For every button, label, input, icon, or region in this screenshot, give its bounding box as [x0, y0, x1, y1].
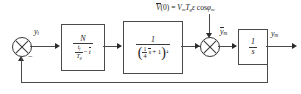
arrowhead-lag-input [117, 43, 122, 49]
signal-label-yt: yt [34, 28, 39, 36]
signal-label-ybar-sub: m [224, 30, 228, 36]
feedback-wire-right-vertical [267, 46, 268, 82]
arrowhead-gain-input [55, 43, 60, 49]
lag-den-quarter: 1 4 [142, 46, 147, 59]
integrator-expression: 1 s [249, 38, 257, 56]
signal-label-yt-sub: t [38, 30, 39, 36]
lag-block: 1 ( 1 4 s + 1 ) 4 [123, 21, 183, 74]
lag-numerator: 1 [149, 36, 157, 44]
output-signal-label: ym [271, 30, 278, 38]
wire-integrator-to-output [266, 46, 295, 47]
lag-denominator: ( 1 4 s + 1 ) 4 [136, 44, 171, 59]
gain-den-frac-num: tf [77, 44, 82, 52]
vbar-arg: (0) = [161, 3, 176, 12]
gain-block: N tf Tg − t [61, 24, 105, 71]
initial-condition-annotation: V(0) = VmTgε cosφm [156, 4, 214, 13]
gain-denominator: tf Tg − t [73, 43, 92, 61]
signal-label-ybar-m: ym [220, 28, 227, 36]
tg-term: Tg [185, 3, 192, 12]
arrowhead-integrator-input [232, 43, 237, 49]
phi-term: φm [207, 3, 215, 12]
epsilon-term: ε [192, 3, 195, 12]
feedback-wire-left-vertical [21, 56, 22, 83]
feedback-wire-horizontal [21, 82, 268, 83]
vbar-symbol: V [156, 4, 161, 12]
output-label-sub: m [275, 32, 279, 38]
lag-den-exponent: 4 [166, 50, 168, 55]
wire-sum1-to-gain [30, 46, 58, 47]
gain-den-tbar: t [89, 49, 91, 56]
gain-den-frac-den: Tg [75, 52, 82, 61]
gain-block-expression: N tf Tg − t [73, 35, 92, 61]
integrator-denominator: s [249, 47, 256, 56]
gain-numerator: N [78, 35, 87, 43]
integrator-block: 1 s [238, 29, 268, 65]
arrowhead-output [292, 43, 297, 49]
block-diagram: − yt N tf Tg − t 1 ( [0, 0, 301, 94]
lag-den-plus-one: + 1 [152, 49, 161, 56]
gain-den-fraction: tf Tg [75, 44, 82, 61]
lag-den-quarter-den: 4 [142, 52, 147, 59]
summing-junction-2 [200, 37, 220, 57]
feedback-sign-label: − [28, 53, 33, 61]
lag-den-sbar: s [148, 49, 151, 56]
gain-den-minus: − [84, 49, 88, 56]
signal-label-ybar-base: y [220, 28, 224, 36]
integrator-numerator: 1 [249, 38, 257, 46]
lag-block-expression: 1 ( 1 4 s + 1 ) 4 [136, 36, 171, 59]
cos-term: cos [197, 3, 207, 12]
